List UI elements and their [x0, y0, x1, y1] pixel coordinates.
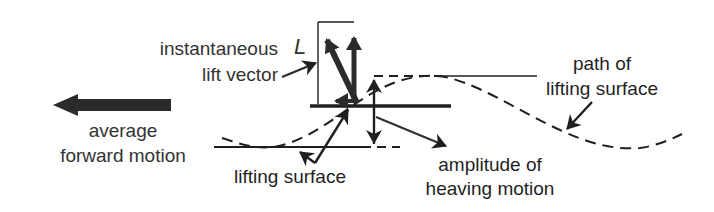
average-forward-motion-arrow [53, 94, 171, 116]
amplitude-leader [376, 117, 446, 146]
average-label-line2: forward motion [60, 145, 186, 166]
diagram-svg: L instantaneous lift vector average forw… [0, 0, 714, 212]
amplitude-label-line1: amplitude of [438, 154, 542, 175]
path-leader [567, 102, 592, 129]
lift-symbol-label: L [294, 34, 306, 59]
amplitude-label-line2: heaving motion [426, 178, 555, 199]
path-label-line1: path of [573, 53, 632, 74]
instantaneous-label-line2: lift vector [202, 64, 279, 85]
path-label-line2: lifting surface [546, 78, 658, 99]
heaving-lift-diagram: L instantaneous lift vector average forw… [0, 0, 714, 212]
instantaneous-lift-leader [282, 63, 316, 77]
lifting-surface-leader [300, 110, 348, 163]
instantaneous-label-line1: instantaneous [160, 38, 278, 59]
average-label-line1: average [89, 120, 158, 141]
lifting-surface-label: lifting surface [234, 166, 346, 187]
